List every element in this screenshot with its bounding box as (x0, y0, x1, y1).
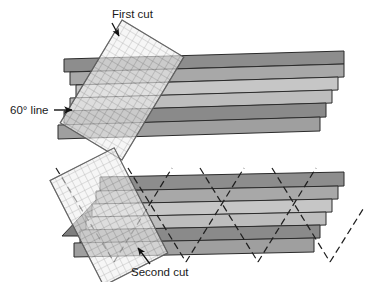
cutting-diagram: First cut 60° line (0, 0, 365, 282)
diagram-canvas: First cut 60° line (0, 0, 365, 282)
sixty-line-label: 60° line (10, 104, 49, 116)
first-cut-label: First cut (112, 8, 154, 20)
sixty-line-text: 60° line (10, 104, 49, 116)
second-cut-label: Second cut (131, 266, 189, 278)
